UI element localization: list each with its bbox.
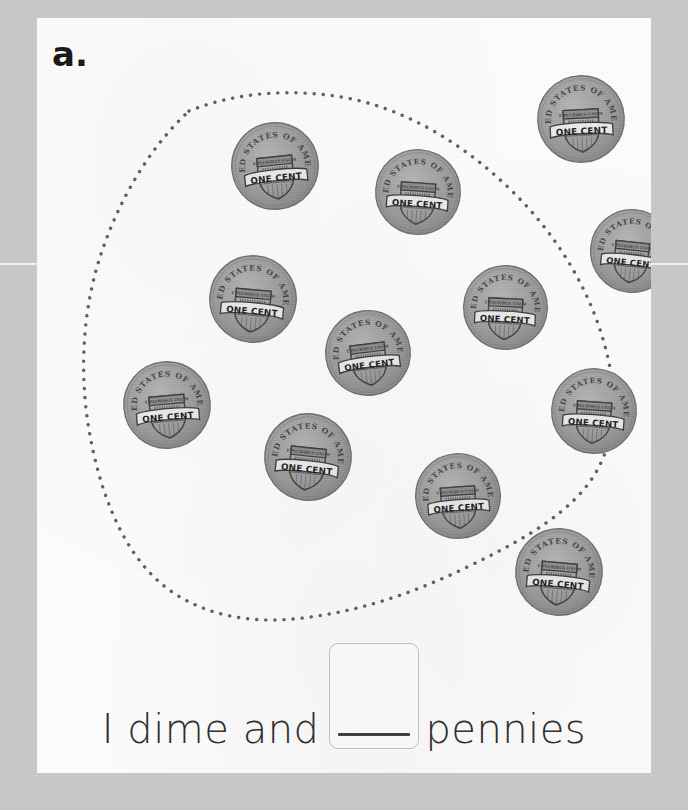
worksheet-page: a. UNITED STATES OF AMERICA E PLURIBUS U… bbox=[0, 0, 688, 810]
sentence-lead-text: I dime and bbox=[102, 709, 320, 749]
penny-coin[interactable]: UNITED STATES OF AMERICA E PLURIBUS UNUM… bbox=[533, 71, 630, 168]
penny-artwork: UNITED STATES OF AMERICA E PLURIBUS UNUM… bbox=[459, 261, 553, 355]
penny-coin[interactable]: UNITED STATES OF AMERICA E PLURIBUS UNUM… bbox=[203, 249, 303, 349]
penny-coin[interactable]: UNITED STATES OF AMERICA E PLURIBUS UNUM… bbox=[509, 522, 609, 622]
penny-artwork: UNITED STATES OF AMERICA E PLURIBUS UNUM… bbox=[584, 203, 651, 300]
penny-artwork: UNITED STATES OF AMERICA E PLURIBUS UNUM… bbox=[224, 115, 325, 216]
penny-coin[interactable]: UNITED STATES OF AMERICA E PLURIBUS UNUM… bbox=[117, 355, 217, 455]
penny-coin[interactable]: UNITED STATES OF AMERICA E PLURIBUS UNUM… bbox=[224, 115, 325, 216]
penny-artwork: UNITED STATES OF AMERICA E PLURIBUS UNUM… bbox=[257, 406, 358, 507]
answer-input-box[interactable] bbox=[329, 643, 419, 749]
penny-artwork: UNITED STATES OF AMERICA E PLURIBUS UNUM… bbox=[410, 448, 506, 544]
penny-coin[interactable]: UNITED STATES OF AMERICA E PLURIBUS UNUM… bbox=[584, 203, 651, 300]
worksheet-card: a. UNITED STATES OF AMERICA E PLURIBUS U… bbox=[37, 18, 651, 773]
penny-coin[interactable]: UNITED STATES OF AMERICA E PLURIBUS UNUM… bbox=[546, 363, 642, 459]
answer-write-on-line bbox=[338, 733, 410, 736]
penny-coin[interactable]: UNITED STATES OF AMERICA E PLURIBUS UNUM… bbox=[257, 406, 358, 507]
penny-coin[interactable]: UNITED STATES OF AMERICA E PLURIBUS UNUM… bbox=[318, 303, 418, 403]
penny-artwork: UNITED STATES OF AMERICA E PLURIBUS UNUM… bbox=[533, 71, 630, 168]
problem-item-label: a. bbox=[52, 34, 88, 74]
sentence-trailing-text: pennies bbox=[425, 709, 586, 749]
penny-artwork: UNITED STATES OF AMERICA E PLURIBUS UNUM… bbox=[117, 355, 217, 455]
penny-coin[interactable]: UNITED STATES OF AMERICA E PLURIBUS UNUM… bbox=[459, 261, 553, 355]
penny-artwork: UNITED STATES OF AMERICA E PLURIBUS UNUM… bbox=[370, 144, 466, 240]
penny-artwork: UNITED STATES OF AMERICA E PLURIBUS UNUM… bbox=[546, 363, 642, 459]
penny-coin[interactable]: UNITED STATES OF AMERICA E PLURIBUS UNUM… bbox=[370, 144, 466, 240]
penny-artwork: UNITED STATES OF AMERICA E PLURIBUS UNUM… bbox=[203, 249, 303, 349]
penny-artwork: UNITED STATES OF AMERICA E PLURIBUS UNUM… bbox=[509, 522, 609, 622]
answer-sentence: I dime and pennies bbox=[37, 619, 651, 749]
scan-artifact-line-left bbox=[0, 263, 38, 265]
penny-artwork: UNITED STATES OF AMERICA E PLURIBUS UNUM… bbox=[318, 303, 418, 403]
scan-artifact-line-right bbox=[650, 263, 688, 265]
penny-coin[interactable]: UNITED STATES OF AMERICA E PLURIBUS UNUM… bbox=[410, 448, 506, 544]
